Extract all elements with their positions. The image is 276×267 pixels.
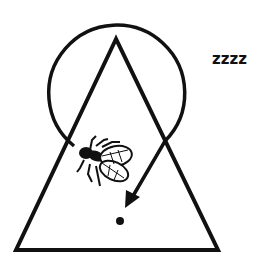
triangle-shape (16, 39, 218, 250)
diagram-drawing (0, 0, 276, 267)
fly-icon (77, 136, 133, 186)
dot (116, 217, 124, 225)
diagram-canvas: zzzz (0, 0, 276, 267)
arrowhead-icon (125, 190, 140, 208)
sleep-text: zzzz (212, 50, 247, 68)
